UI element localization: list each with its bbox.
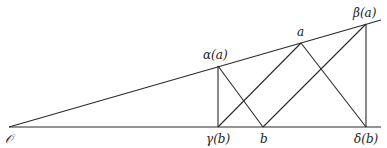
alpha-to-b-segment	[218, 66, 263, 127]
label-a: a	[297, 25, 304, 39]
label-alpha-a: α(a)	[203, 48, 228, 62]
geometry-diagram: 𝒪 α(a) a β(a) γ(b) b δ(b)	[0, 0, 387, 148]
label-beta-a: β(a)	[352, 6, 377, 20]
label-b: b	[260, 132, 268, 146]
label-delta-b: δ(b)	[354, 132, 379, 146]
label-origin: 𝒪	[5, 132, 16, 146]
a-to-delta-segment	[301, 43, 366, 127]
label-gamma-b: γ(b)	[206, 132, 231, 146]
gamma-to-a-segment	[218, 43, 301, 127]
